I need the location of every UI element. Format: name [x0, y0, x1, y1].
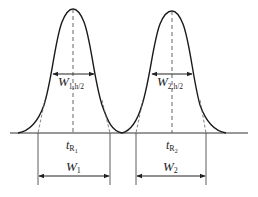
peak-1-tangent-right — [102, 100, 110, 133]
peak-2-retention-time-label: tR2 — [166, 138, 178, 154]
peak-2-base-width-label: W2 — [163, 159, 178, 175]
peak-2-curve — [122, 11, 226, 133]
peak-1-retention-time-label: tR1 — [66, 138, 78, 154]
peak-1-curve — [18, 9, 122, 133]
chromatogram-diagram: W1,h/2 W2,h/2 tR1 tR2 W1 W2 — [0, 0, 258, 197]
peak-1-base-width-label: W1 — [66, 159, 81, 175]
peak-2-half-width-label: W2,h/2 — [157, 74, 183, 91]
peak-1-half-width-label: W1,h/2 — [58, 74, 84, 91]
